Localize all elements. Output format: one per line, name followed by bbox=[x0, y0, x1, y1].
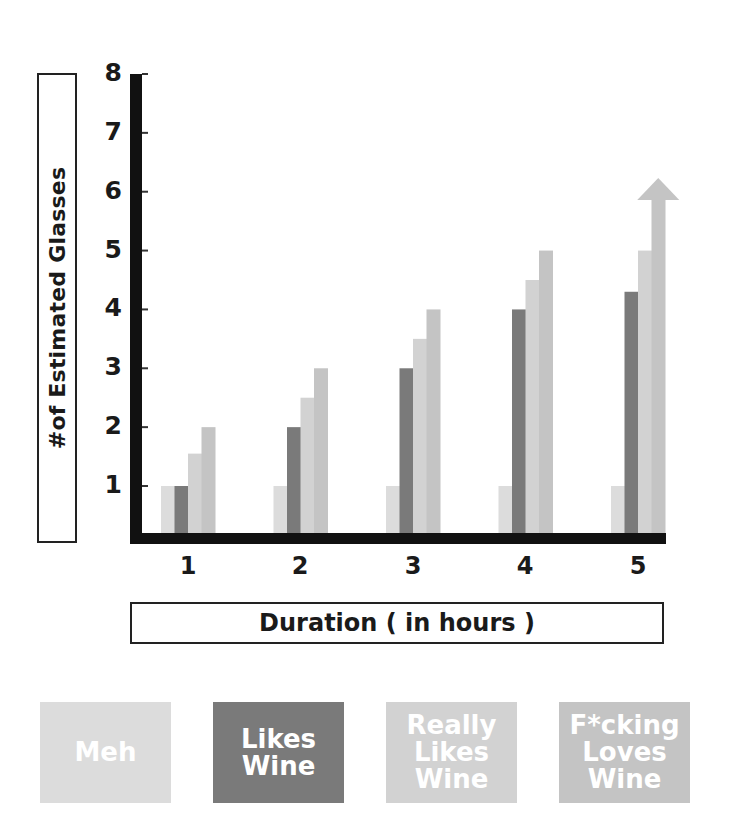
legend-label: ReallyLikesWine bbox=[407, 712, 497, 793]
x-tick-label: 1 bbox=[173, 552, 203, 580]
arrow-annotation bbox=[637, 178, 679, 200]
y-tick-mark bbox=[142, 426, 148, 428]
y-axis-label-box: #of Estimated Glasses bbox=[37, 73, 77, 543]
bar bbox=[512, 309, 526, 533]
bar bbox=[202, 427, 216, 533]
bar bbox=[413, 339, 427, 533]
bar bbox=[611, 486, 625, 533]
legend-label: F*ckingLovesWine bbox=[569, 712, 679, 793]
y-tick-label: 1 bbox=[92, 470, 122, 499]
y-tick-mark bbox=[142, 191, 148, 193]
y-tick-label: 7 bbox=[92, 117, 122, 146]
bar bbox=[499, 486, 513, 533]
bar bbox=[301, 398, 315, 533]
legend-item: Meh bbox=[40, 702, 171, 803]
bar bbox=[652, 200, 666, 533]
bar bbox=[314, 368, 328, 533]
legend-label: LikesWine bbox=[241, 726, 316, 780]
y-tick-marks bbox=[142, 73, 148, 487]
bar bbox=[638, 251, 652, 533]
bar bbox=[625, 292, 639, 533]
bar bbox=[274, 486, 288, 533]
y-tick-label: 4 bbox=[92, 293, 122, 322]
bar bbox=[287, 427, 301, 533]
bar bbox=[526, 280, 540, 533]
legend-item: F*ckingLovesWine bbox=[559, 702, 690, 803]
y-tick-label: 6 bbox=[92, 176, 122, 205]
bar bbox=[427, 309, 441, 533]
legend-item: LikesWine bbox=[213, 702, 344, 803]
legend-item: ReallyLikesWine bbox=[386, 702, 517, 803]
bar bbox=[386, 486, 400, 533]
bar bbox=[161, 486, 175, 533]
arrow-up-icon bbox=[637, 178, 679, 200]
x-axis-label-box: Duration ( in hours ) bbox=[130, 602, 664, 644]
y-tick-label: 2 bbox=[92, 411, 122, 440]
y-tick-mark bbox=[142, 367, 148, 369]
bar bbox=[188, 454, 202, 533]
x-tick-label: 5 bbox=[623, 552, 653, 580]
legend-label: Meh bbox=[74, 739, 136, 766]
x-axis-line bbox=[130, 533, 666, 544]
x-tick-label: 2 bbox=[285, 552, 315, 580]
y-axis-label: #of Estimated Glasses bbox=[45, 167, 70, 449]
bar bbox=[400, 368, 414, 533]
bars-layer bbox=[161, 200, 666, 533]
bar bbox=[175, 486, 189, 533]
y-tick-label: 3 bbox=[92, 352, 122, 381]
y-axis-line bbox=[130, 74, 142, 544]
y-tick-mark bbox=[142, 132, 148, 134]
y-tick-label: 5 bbox=[92, 235, 122, 264]
x-axis-label: Duration ( in hours ) bbox=[259, 609, 535, 637]
y-tick-mark bbox=[142, 73, 148, 75]
y-tick-mark bbox=[142, 308, 148, 310]
y-tick-mark bbox=[142, 485, 148, 487]
x-tick-label: 3 bbox=[398, 552, 428, 580]
y-tick-label: 8 bbox=[92, 58, 122, 87]
x-tick-label: 4 bbox=[510, 552, 540, 580]
y-tick-mark bbox=[142, 250, 148, 252]
bar bbox=[539, 251, 553, 533]
